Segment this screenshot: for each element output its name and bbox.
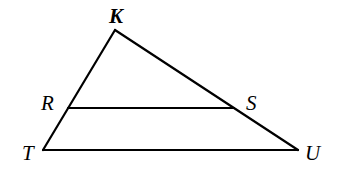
point-label-r: R: [40, 91, 54, 115]
segment-ku: [115, 30, 298, 150]
vertex-label-t: T: [22, 141, 35, 165]
triangle-diagram: K R S T U: [0, 0, 344, 174]
point-label-s: S: [246, 91, 257, 115]
segment-kt: [43, 30, 115, 150]
vertex-label-u: U: [305, 141, 322, 165]
vertex-label-k: K: [108, 4, 125, 28]
